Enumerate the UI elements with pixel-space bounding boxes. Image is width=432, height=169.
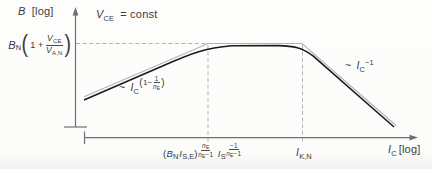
fraction-numerator: VCE xyxy=(46,34,64,45)
x-axis-sub: C xyxy=(391,149,396,158)
x-tick-knee-label: IK,N xyxy=(296,147,312,158)
x-tick-onset-label: (BNIS,E)nEnE−1IS−1nE−1 xyxy=(163,146,242,162)
y-axis-scale: [log] xyxy=(32,5,54,17)
exp-den-sub: E xyxy=(157,85,161,91)
den-sub: A,N xyxy=(52,50,63,56)
onset-b-sub: N xyxy=(173,153,178,161)
close-paren: ) xyxy=(194,149,197,159)
y-level-base: B xyxy=(8,40,16,51)
exp-open-paren: ( xyxy=(139,77,142,88)
onset-i2-sub: S xyxy=(221,153,226,161)
rise-slope-label: ~ IC(1−1nE) xyxy=(119,80,165,96)
condition-symbol: V xyxy=(96,8,104,20)
exp2-den: nE−1 xyxy=(226,150,241,158)
tilde: ~ xyxy=(345,59,351,71)
y-level-base-sub: N xyxy=(16,44,21,52)
open-paren: ( xyxy=(22,35,29,53)
fall-slope-label: ~ IC−1 xyxy=(345,60,374,71)
y-axis-arrowhead-icon xyxy=(73,7,79,16)
exp1-den-tail: −1 xyxy=(206,151,214,158)
condition-rest: = const xyxy=(120,8,157,20)
x-axis-scale: [log] xyxy=(399,143,421,155)
onset-i-sub: S,E xyxy=(182,153,194,161)
exp2-num: −1 xyxy=(229,142,239,150)
rise-exponent: (1−1nE) xyxy=(139,75,165,91)
exp-frac-num: 1 xyxy=(154,75,160,83)
y-axis-title: B [log] xyxy=(18,6,54,17)
condition-subscript: CE xyxy=(104,14,114,23)
exp1-den: nE−1 xyxy=(198,151,213,159)
exp2-den-tail: −1 xyxy=(234,150,242,157)
y-level-one-plus: 1 + xyxy=(30,41,43,50)
plot-canvas xyxy=(0,0,432,169)
y-level-fraction: VCE VA,N xyxy=(46,34,64,56)
x-axis-title: IC[log] xyxy=(388,144,420,155)
fall-exponent: −1 xyxy=(365,58,374,67)
close-paren: ) xyxy=(65,35,72,53)
tilde: ~ xyxy=(119,81,125,93)
exp1-den-sub: E xyxy=(202,153,206,159)
y-axis-symbol: B xyxy=(18,5,26,17)
onset-exponent-1: nEnE−1 xyxy=(198,142,213,158)
num-sub: CE xyxy=(53,38,62,44)
condition-label: VCE = const xyxy=(96,9,157,20)
exp1-num: nE xyxy=(201,142,210,151)
exp-close-paren: ) xyxy=(161,77,164,88)
onset-exponent-2: −1nE−1 xyxy=(226,142,241,158)
fraction-denominator: VA,N xyxy=(46,46,62,56)
exp-lead: 1− xyxy=(143,79,153,87)
exp2-den-sub: E xyxy=(230,152,234,158)
knee-sub: K,N xyxy=(299,152,312,161)
exp1-num-sub: E xyxy=(206,144,210,150)
num-symbol: V xyxy=(47,33,53,43)
exp-frac-den: nE xyxy=(153,83,160,91)
x-axis-arrowhead-icon xyxy=(410,135,419,141)
y-level-expression: BN ( 1 + VCE VA,N ) xyxy=(6,30,72,60)
exp-fraction: 1nE xyxy=(153,75,160,91)
figure-current-gain-vs-collector-current: B [log] VCE = const BN ( 1 + VCE VA,N ) … xyxy=(0,0,432,169)
